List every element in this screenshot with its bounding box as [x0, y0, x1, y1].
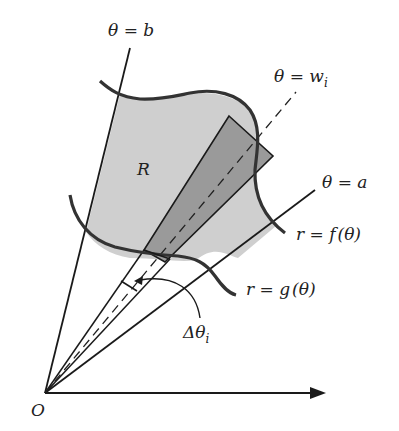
label-region-r: R: [136, 159, 150, 179]
label-outer-curve: r = f(θ): [296, 224, 361, 244]
polar-region-diagram: θ = b θ = wi θ = a R r = f(θ) r = g(θ) Δ…: [0, 0, 399, 431]
label-theta-a: θ = a: [322, 172, 367, 192]
label-theta-b: θ = b: [108, 20, 154, 40]
label-origin: O: [31, 400, 45, 420]
ray-element-left: [45, 250, 144, 393]
label-inner-curve: r = g(θ): [246, 279, 316, 299]
polar-axis-arrow-icon: [310, 387, 326, 399]
label-theta-wi: θ = wi: [274, 66, 328, 90]
label-delta-theta: Δθi: [182, 322, 210, 346]
